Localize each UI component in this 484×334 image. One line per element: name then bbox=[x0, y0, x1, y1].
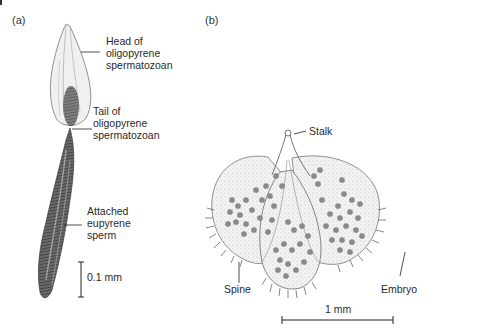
embryo-callout: Embryo bbox=[381, 283, 417, 295]
tail-callout: Tail of oligopyrene spermatozoan bbox=[93, 105, 160, 141]
oligopyrene-head-drawing bbox=[50, 24, 90, 126]
spine-callout: Spine bbox=[224, 283, 251, 295]
head-callout: Head of oligopyrene spermatozoan bbox=[106, 35, 173, 71]
panel-b-label: (b) bbox=[205, 14, 218, 26]
scale-bar-b-label: 1 mm bbox=[325, 303, 351, 315]
cyst-drawing bbox=[205, 130, 386, 298]
eupyrene-callout: Attached eupyrene sperm bbox=[87, 205, 131, 241]
panel-a-label: (a) bbox=[12, 14, 25, 26]
eupyrene-sperm-bundle-drawing bbox=[38, 128, 73, 298]
scale-bar-a-label: 0.1 mm bbox=[87, 271, 122, 283]
stalk-callout: Stalk bbox=[309, 125, 332, 137]
